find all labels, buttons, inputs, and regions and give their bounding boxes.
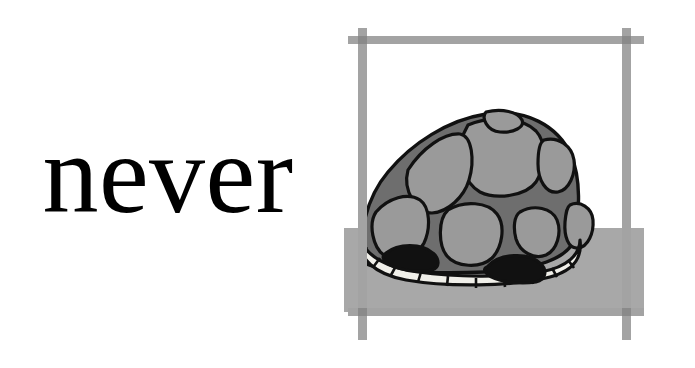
frame-corner-bottom-left <box>358 308 367 316</box>
word-panel: never <box>0 0 336 368</box>
scute-mid-right <box>514 208 559 257</box>
scute-crown <box>484 110 522 132</box>
flashcard-page: never <box>0 0 695 368</box>
scute-upper-right <box>538 139 574 192</box>
frame-bar-top <box>348 36 644 44</box>
frame-corner-top-left <box>358 36 367 44</box>
illustration-panel <box>336 0 695 368</box>
frame-corner-top-right <box>622 36 631 44</box>
frame-bar-left <box>358 28 367 340</box>
frame-bar-bottom <box>348 308 644 316</box>
frame-bar-right <box>622 28 631 340</box>
vocabulary-word: never <box>0 118 336 230</box>
scute-mid-center <box>440 204 502 266</box>
shell-opening-left <box>383 246 438 272</box>
turtle-illustration <box>336 0 695 368</box>
frame-corner-bottom-right <box>622 308 631 316</box>
